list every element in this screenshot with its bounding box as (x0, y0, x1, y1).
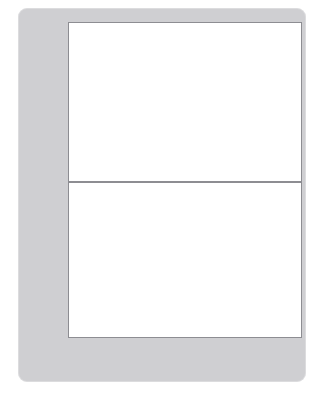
vagal-activity-curve (69, 23, 301, 181)
figure-container (0, 0, 319, 395)
sympathetic-activity-curve (69, 183, 301, 337)
sympathetic-activity-plot (68, 182, 302, 338)
vagal-activity-plot (68, 22, 302, 182)
